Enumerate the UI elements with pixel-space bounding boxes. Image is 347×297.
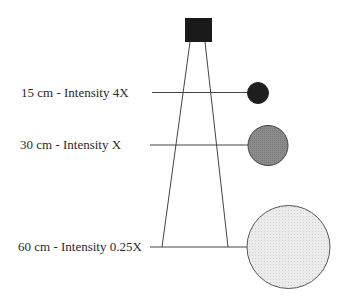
intensity-circle-60cm xyxy=(247,206,330,289)
label-15cm: 15 cm - Intensity 4X xyxy=(21,86,129,99)
label-60cm: 60 cm - Intensity 0.25X xyxy=(18,240,142,253)
intensity-circle-30cm xyxy=(248,126,288,166)
label-30cm: 30 cm - Intensity X xyxy=(20,138,121,151)
light-source-square xyxy=(185,18,212,42)
inverse-square-diagram: 15 cm - Intensity 4X 30 cm - Intensity X… xyxy=(0,0,347,297)
intensity-circle-15cm xyxy=(248,83,269,104)
